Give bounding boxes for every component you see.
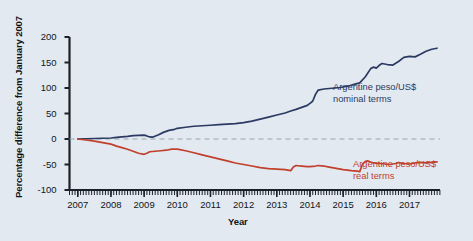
x-axis-tick-label: 2009 — [132, 199, 156, 210]
x-axis-tick-label: 2016 — [364, 199, 388, 210]
chart-figure: Percentage difference from January 2007 … — [0, 0, 473, 241]
y-axis-tick-label: 150 — [27, 57, 57, 68]
x-axis-title: Year — [228, 216, 248, 227]
x-axis-tick-label: 2008 — [99, 199, 123, 210]
series-label-nominal-line2: nominal terms — [333, 94, 416, 106]
y-axis-tick-label: -50 — [27, 159, 57, 170]
x-axis-tick-label: 2007 — [66, 199, 90, 210]
x-axis-tick-label: 2011 — [198, 199, 222, 210]
x-axis-tick-label: 2015 — [331, 199, 355, 210]
y-axis-tick-label: 0 — [27, 133, 57, 144]
y-axis-tick-label: 100 — [27, 82, 57, 93]
y-axis-title: Percentage difference from January 2007 — [13, 16, 24, 198]
y-axis-tick-label: -100 — [27, 184, 57, 195]
series-label-real-line2: real terms — [353, 171, 436, 183]
y-axis-tick-label: 50 — [27, 108, 57, 119]
series-label-real-line1: Argentine peso/US$ — [353, 159, 436, 171]
series-label-nominal-line1: Argentine peso/US$ — [333, 82, 416, 94]
y-axis-tick-label: 200 — [27, 31, 57, 42]
x-axis-tick-label: 2010 — [165, 199, 189, 210]
x-axis-tick-label: 2013 — [265, 199, 289, 210]
series-label-nominal: Argentine peso/US$ nominal terms — [333, 82, 416, 105]
x-axis-tick-label: 2014 — [298, 199, 322, 210]
x-axis-tick-label: 2012 — [232, 199, 256, 210]
series-label-real: Argentine peso/US$ real terms — [353, 159, 436, 182]
x-axis-tick-label: 2017 — [397, 199, 421, 210]
